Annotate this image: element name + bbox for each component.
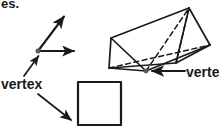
figure-square xyxy=(78,82,121,125)
prism-vertex-dot xyxy=(144,69,149,74)
label-vertex-right: vertex xyxy=(186,64,219,80)
angle-vertex-dot xyxy=(36,49,41,54)
clipped-heading-text: es. xyxy=(1,0,19,11)
vertex-diagram: es. xyxy=(0,0,219,135)
label-vertex-left: vertex xyxy=(1,76,42,92)
figure-angle xyxy=(36,17,75,54)
pointer-to-angle-vertex xyxy=(24,56,39,76)
square-outline xyxy=(78,82,121,125)
prism-lateral-edge-top xyxy=(111,8,189,38)
diagram-canvas: es. xyxy=(0,0,219,135)
prism-far-triangle xyxy=(176,8,210,63)
clipped-heading-fragment: es. xyxy=(1,0,19,11)
pointer-to-square-vertex xyxy=(38,94,71,120)
angle-ray-upper xyxy=(38,17,64,52)
